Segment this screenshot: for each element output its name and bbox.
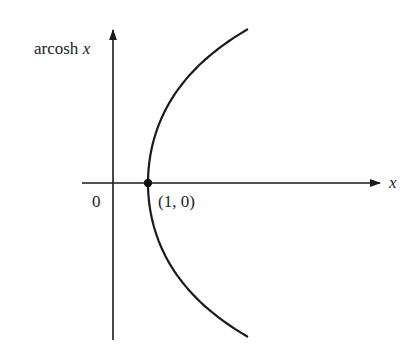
- x-axis-label: x: [388, 173, 397, 192]
- y-axis-label-func: arcosh: [34, 39, 79, 58]
- point-1-0-dot: [144, 179, 152, 187]
- y-axis-label-var: x: [82, 39, 91, 58]
- point-label: (1, 0): [158, 192, 195, 211]
- arcosh-graph: arcosh x x 0 (1, 0): [0, 0, 418, 360]
- y-axis-label: arcosh x: [34, 39, 91, 58]
- origin-label: 0: [92, 192, 101, 211]
